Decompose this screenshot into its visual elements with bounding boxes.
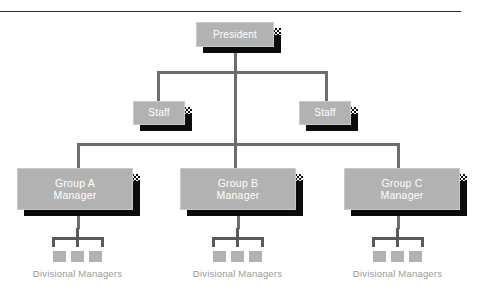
group-a-label-line1: Group A: [54, 177, 97, 189]
divisional-label-b: Divisional Managers: [160, 268, 315, 279]
group-b-label-line2: Manager: [217, 189, 260, 201]
divisional-box: [373, 251, 386, 262]
divisional-label-a: Divisional Managers: [0, 268, 155, 279]
connector-group-b-drop: [234, 143, 237, 169]
node-staff-left[interactable]: Staff: [133, 101, 185, 125]
divisional-box: [53, 251, 66, 262]
divisional-box: [89, 251, 102, 262]
staff-right-box: Staff: [299, 101, 351, 125]
divisional-cluster-c[interactable]: Divisional Managers: [320, 228, 475, 279]
president-box: President: [196, 22, 274, 47]
group-c-label-line2: Manager: [381, 189, 424, 201]
connector-staff-left-drop: [157, 71, 160, 102]
president-label: President: [213, 29, 257, 41]
node-group-b-manager[interactable]: Group B Manager: [180, 168, 296, 210]
group-b-label-line1: Group B: [217, 177, 260, 189]
connector-group-bar: [77, 143, 400, 146]
top-divider-rule: [0, 11, 461, 12]
group-b-box: Group B Manager: [180, 168, 296, 210]
divisional-tree-b-icon: [209, 228, 267, 250]
connector-group-c-drop: [397, 143, 400, 169]
connector-staff-bar: [157, 71, 328, 74]
node-staff-right[interactable]: Staff: [299, 101, 351, 125]
group-a-box: Group A Manager: [17, 168, 133, 210]
node-group-a-manager[interactable]: Group A Manager: [17, 168, 133, 210]
divisional-box: [409, 251, 422, 262]
staff-right-label: Staff: [314, 107, 335, 119]
divisional-tree-c-icon: [369, 228, 427, 250]
divisional-label-c: Divisional Managers: [320, 268, 475, 279]
connector-group-a-drop: [77, 143, 80, 169]
staff-left-label: Staff: [148, 107, 169, 119]
staff-left-box: Staff: [133, 101, 185, 125]
divisional-tree-a-icon: [49, 228, 107, 250]
org-chart-page: President Staff Staff Group A Manager: [0, 0, 477, 298]
divisional-cluster-b[interactable]: Divisional Managers: [160, 228, 315, 279]
group-c-box: Group C Manager: [344, 168, 460, 210]
connector-staff-right-drop: [325, 71, 328, 102]
divisional-box: [213, 251, 226, 262]
connector-president-stem: [234, 47, 237, 144]
group-c-label-line1: Group C: [381, 177, 424, 189]
divisional-box: [71, 251, 84, 262]
node-president[interactable]: President: [196, 22, 274, 47]
group-a-label-line2: Manager: [54, 189, 97, 201]
divisional-box: [249, 251, 262, 262]
divisional-box: [391, 251, 404, 262]
divisional-boxes-a: [0, 251, 155, 262]
divisional-cluster-a[interactable]: Divisional Managers: [0, 228, 155, 279]
divisional-boxes-b: [160, 251, 315, 262]
node-group-c-manager[interactable]: Group C Manager: [344, 168, 460, 210]
divisional-boxes-c: [320, 251, 475, 262]
divisional-box: [231, 251, 244, 262]
